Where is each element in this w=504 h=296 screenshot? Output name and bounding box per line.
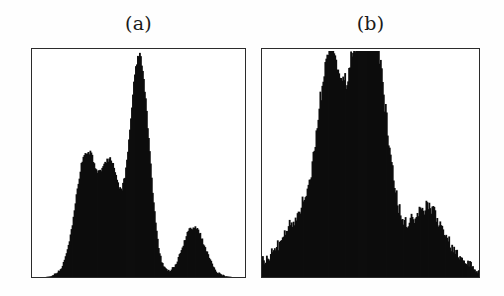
panel-a-plot-frame [31,48,246,278]
panel-b-plot-frame [261,48,480,278]
panel-b: (b) [261,12,480,278]
panel-a: (a) [31,12,246,278]
panel-a-histogram-canvas [32,49,245,277]
panel-b-label: (b) [261,12,480,34]
histogram-figure: (a) (b) [0,0,504,296]
panel-a-label: (a) [31,12,246,34]
panel-b-histogram-canvas [262,49,479,277]
